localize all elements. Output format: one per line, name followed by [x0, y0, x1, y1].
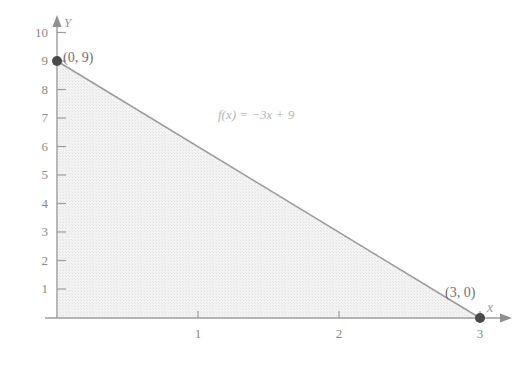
- y-axis-arrow-icon: [53, 15, 62, 27]
- point-label-x-intercept: (3, 0): [445, 286, 475, 300]
- point-x-intercept: [475, 313, 485, 323]
- y-tick-label-1: 1: [20, 282, 48, 295]
- point-label-y-intercept: (0, 9): [63, 51, 93, 65]
- x-tick-label-1: 1: [184, 327, 212, 340]
- x-axis-arrow-icon: [500, 314, 512, 323]
- y-tick-label-5: 5: [20, 168, 48, 181]
- y-tick-label-9: 9: [20, 54, 48, 67]
- graph-figure: Y x 10 9 8 7 6 5 4 3 2 1 1 2 3 (0, 9) (3…: [0, 0, 529, 379]
- y-tick-label-2: 2: [20, 254, 48, 267]
- y-axis-label: Y: [64, 16, 71, 29]
- y-tick-label-10: 10: [20, 26, 48, 39]
- x-tick-label-3: 3: [466, 327, 494, 340]
- x-axis-label: x: [487, 301, 493, 315]
- y-tick-label-4: 4: [20, 197, 48, 210]
- point-y-intercept: [52, 56, 62, 66]
- x-tick-label-2: 2: [325, 327, 353, 340]
- y-tick-label-7: 7: [20, 111, 48, 124]
- function-equation-label: f(x) = −3x + 9: [218, 108, 294, 121]
- y-tick-label-3: 3: [20, 225, 48, 238]
- y-tick-label-6: 6: [20, 140, 48, 153]
- y-tick-label-8: 8: [20, 83, 48, 96]
